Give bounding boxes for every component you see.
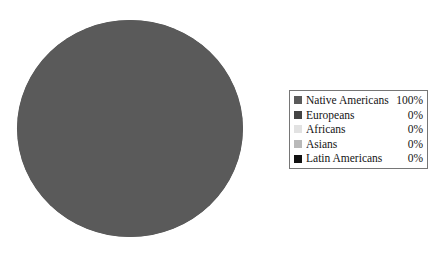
legend-value-latin-americans: 0% xyxy=(402,151,423,166)
legend-item-latin-americans[interactable]: Latin Americans 0% xyxy=(294,151,423,166)
legend-swatch-africans xyxy=(294,125,302,133)
pie-slice-group xyxy=(17,20,243,237)
legend-value-native-americans: 100% xyxy=(390,93,423,108)
chart-legend: Native Americans 100% Europeans 0% Afric… xyxy=(289,90,428,169)
pie-chart-figure: Native Americans 100% Europeans 0% Afric… xyxy=(0,0,438,254)
legend-swatch-europeans xyxy=(294,111,302,119)
legend-swatch-latin-americans xyxy=(294,155,302,163)
legend-item-europeans[interactable]: Europeans 0% xyxy=(294,108,423,123)
legend-swatch-native-americans xyxy=(294,96,302,104)
legend-item-africans[interactable]: Africans 0% xyxy=(294,122,423,137)
pie-slice-native-americans[interactable] xyxy=(17,20,243,237)
legend-swatch-asians xyxy=(294,140,302,148)
legend-label-latin-americans: Latin Americans xyxy=(306,151,402,166)
legend-label-europeans: Europeans xyxy=(306,108,402,123)
legend-label-asians: Asians xyxy=(306,137,402,152)
legend-value-asians: 0% xyxy=(402,137,423,152)
legend-value-africans: 0% xyxy=(402,122,423,137)
legend-item-native-americans[interactable]: Native Americans 100% xyxy=(294,93,423,108)
legend-label-africans: Africans xyxy=(306,122,402,137)
legend-label-native-americans: Native Americans xyxy=(306,93,390,108)
legend-item-asians[interactable]: Asians 0% xyxy=(294,137,423,152)
pie-chart-plot-area xyxy=(17,20,243,237)
legend-value-europeans: 0% xyxy=(402,108,423,123)
